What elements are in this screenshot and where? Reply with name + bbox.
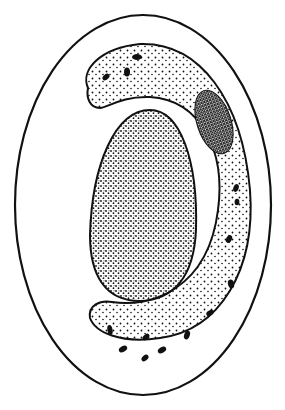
cell-illustration	[0, 0, 285, 410]
